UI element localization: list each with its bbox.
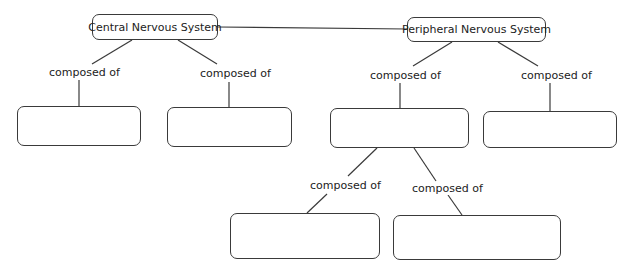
node-pns-child-1[interactable] — [330, 108, 469, 148]
node-cns-child-2[interactable] — [167, 107, 292, 147]
node-pns-sub-2[interactable] — [393, 215, 561, 260]
node-peripheral-nervous-system[interactable]: Peripheral Nervous System — [407, 17, 546, 42]
node-label: Central Nervous System — [88, 21, 222, 34]
link-label-pns-2: composed of — [520, 69, 593, 82]
link-label-pns-1: composed of — [369, 69, 442, 82]
node-cns-child-1[interactable] — [17, 106, 141, 146]
node-central-nervous-system[interactable]: Central Nervous System — [92, 14, 218, 40]
node-pns-child-2[interactable] — [483, 111, 617, 148]
node-label: Peripheral Nervous System — [402, 23, 551, 36]
link-label-pns-sub-1: composed of — [309, 179, 382, 192]
link-label-pns-sub-2: composed of — [411, 182, 484, 195]
link-label-cns-2: composed of — [199, 67, 272, 80]
node-pns-sub-1[interactable] — [230, 213, 380, 259]
link-label-cns-1: composed of — [48, 66, 121, 79]
